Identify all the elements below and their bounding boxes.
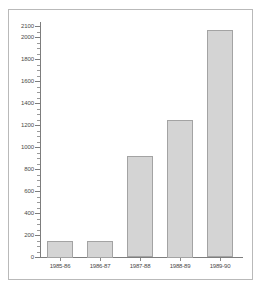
y-axis-tick-label: 200 <box>5 232 34 238</box>
y-axis-minor-tick <box>37 186 40 187</box>
x-axis-tick <box>60 258 61 261</box>
y-axis-minor-tick <box>37 114 40 115</box>
y-axis-minor-tick <box>37 164 40 165</box>
y-axis-tick <box>35 235 40 236</box>
y-axis-minor-tick <box>37 92 40 93</box>
x-axis-tick-label: 1987-88 <box>120 263 160 270</box>
y-axis-minor-tick <box>37 54 40 55</box>
bar <box>47 241 73 258</box>
y-axis-minor-tick <box>37 180 40 181</box>
y-axis-tick-label: 1600 <box>5 78 34 84</box>
y-axis-minor-tick <box>37 120 40 121</box>
y-axis-tick <box>35 125 40 126</box>
y-axis-tick-label-text: 2100 <box>6 23 34 29</box>
x-axis-tick-label: 1989-90 <box>200 263 240 270</box>
y-axis-tick-label-text: 600 <box>6 188 34 194</box>
y-axis-minor-tick <box>37 76 40 77</box>
y-axis-minor-tick <box>37 153 40 154</box>
y-axis-minor-tick <box>37 70 40 71</box>
y-axis-tick <box>35 147 40 148</box>
bar <box>207 30 233 257</box>
y-axis-tick-label-text: 1600 <box>6 78 34 84</box>
y-axis-tick <box>35 191 40 192</box>
y-axis-minor-tick <box>37 65 40 66</box>
y-axis-tick <box>35 81 40 82</box>
y-axis-minor-tick <box>37 109 40 110</box>
y-axis-tick <box>35 37 40 38</box>
bar <box>127 156 153 257</box>
y-axis-minor-tick <box>37 246 40 247</box>
y-axis-minor-tick <box>37 32 40 33</box>
y-axis-tick-label-text: 1400 <box>6 100 34 106</box>
y-axis-minor-tick <box>37 252 40 253</box>
y-axis-tick-label-text: 200 <box>6 232 34 238</box>
y-axis-minor-tick <box>37 230 40 231</box>
y-axis-tick-label: 0 <box>5 254 34 260</box>
y-axis-tick-label-text: 400 <box>6 210 34 216</box>
y-axis-minor-tick <box>37 43 40 44</box>
y-axis-minor-tick <box>37 131 40 132</box>
x-axis-tick <box>180 258 181 261</box>
y-axis-minor-tick <box>37 202 40 203</box>
y-axis-minor-tick <box>37 208 40 209</box>
x-axis-tick-label: 1988-89 <box>160 263 200 270</box>
y-axis-minor-tick <box>37 98 40 99</box>
y-axis-minor-tick <box>37 158 40 159</box>
y-axis-tick <box>35 169 40 170</box>
y-axis-tick-label-text: 1800 <box>6 56 34 62</box>
y-axis-tick-label: 2000 <box>5 34 34 40</box>
y-axis-minor-tick <box>37 224 40 225</box>
x-axis-tick-label: 1986-87 <box>80 263 120 270</box>
x-axis-tick-label: 1985-86 <box>40 263 80 270</box>
y-axis-tick-label-text: 1200 <box>6 122 34 128</box>
y-axis-tick <box>35 213 40 214</box>
y-axis-minor-tick <box>37 48 40 49</box>
x-axis-tick <box>220 258 221 261</box>
y-axis-tick <box>35 26 40 27</box>
y-axis-tick-label: 1800 <box>5 56 34 62</box>
y-axis-tick-label-text: 1000 <box>6 144 34 150</box>
x-axis-tick <box>100 258 101 261</box>
x-axis-tick <box>140 258 141 261</box>
y-axis-tick-label-text: 0 <box>6 254 34 260</box>
y-axis-tick-label: 1400 <box>5 100 34 106</box>
y-axis-minor-tick <box>37 87 40 88</box>
bar <box>167 120 193 258</box>
y-axis-minor-tick <box>37 219 40 220</box>
y-axis-tick-label-text: 800 <box>6 166 34 172</box>
y-axis-tick-label: 400 <box>5 210 34 216</box>
y-axis-tick-label: 1200 <box>5 122 34 128</box>
y-axis-tick-label: 800 <box>5 166 34 172</box>
y-axis-line <box>40 22 41 257</box>
y-axis-tick <box>35 257 40 258</box>
y-axis-tick-label-text: 2000 <box>6 34 34 40</box>
y-axis-minor-tick <box>37 142 40 143</box>
y-axis-tick-label: 600 <box>5 188 34 194</box>
y-axis-minor-tick <box>37 241 40 242</box>
y-axis-tick <box>35 103 40 104</box>
y-axis-minor-tick <box>37 136 40 137</box>
y-axis-tick-label: 1000 <box>5 144 34 150</box>
y-axis-minor-tick <box>37 175 40 176</box>
chart-figure: 0200400600800100012001400160018002000210… <box>0 0 261 289</box>
y-axis-minor-tick <box>37 197 40 198</box>
y-axis-tick-label: 2100 <box>5 23 34 29</box>
bar <box>87 241 113 258</box>
y-axis-tick <box>35 59 40 60</box>
